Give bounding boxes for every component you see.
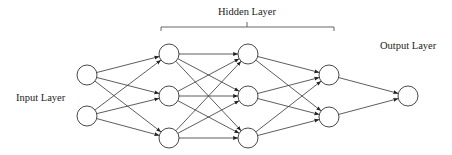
connection-arrow	[256, 81, 321, 132]
input-node-1	[77, 65, 97, 85]
hidden-1-node-3	[159, 128, 179, 148]
output-node-1	[398, 86, 418, 106]
connection-arrow	[258, 120, 320, 136]
connection-arrow	[97, 119, 160, 136]
hidden-3-node-2	[319, 107, 339, 127]
connection-arrow	[258, 78, 320, 94]
connection-arrow	[95, 60, 161, 110]
hidden-3-node-1	[319, 65, 339, 85]
hidden-2-node-1	[238, 44, 258, 64]
hidden-2-node-3	[238, 128, 258, 148]
connection-arrow	[339, 99, 399, 115]
hidden-layer-bracket	[161, 22, 334, 31]
hidden-layer-label: Hidden Layer	[218, 6, 277, 17]
neural-network-diagram: Hidden Layer Input Layer Output Layer	[0, 0, 452, 155]
input-layer-label: Input Layer	[16, 92, 66, 103]
hidden-1-node-1	[159, 44, 179, 64]
connection-arrow	[95, 81, 161, 132]
connection-arrow	[258, 57, 320, 73]
connection-arrow	[97, 98, 160, 113]
output-layer-label: Output Layer	[380, 40, 437, 51]
hidden-1-node-2	[159, 86, 179, 106]
neurons	[77, 44, 418, 148]
hidden-2-node-2	[238, 86, 258, 106]
connection-arrow	[97, 56, 160, 72]
input-node-2	[77, 106, 97, 126]
connection-arrow	[339, 78, 399, 94]
